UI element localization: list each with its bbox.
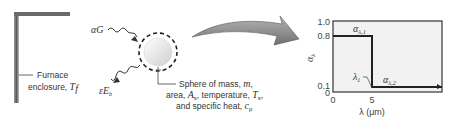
emission-label: εEb xyxy=(99,85,112,97)
furnace-label-line1: Furnace xyxy=(37,70,68,80)
irradiation-label: αG xyxy=(91,24,103,35)
absorptivity-chart: 1.0 0.8 0.1 0 0 5 αλ λ (μm) αλ,1 αλ,2 λ1 xyxy=(304,17,442,117)
curved-arrow-icon xyxy=(192,16,299,45)
furnace-wall-vertical xyxy=(14,12,19,103)
y-tick-0: 0 xyxy=(325,88,330,98)
furnace-label-line2: enclosure, Tf xyxy=(28,81,79,94)
sphere-label-line3: and specific heat, cp xyxy=(176,100,253,112)
x-axis-label: λ (μm) xyxy=(359,107,385,117)
y-axis-label: αλ xyxy=(304,54,316,62)
emission-wave-icon xyxy=(111,65,140,80)
furnace-wall-top xyxy=(14,12,70,16)
x-tick-5: 5 xyxy=(369,95,374,105)
figure-canvas: Furnace enclosure, Tf αG εEb Sphere of m… xyxy=(0,0,454,128)
x-tick-0: 0 xyxy=(330,95,335,105)
irradiation-wave-icon xyxy=(108,28,137,37)
sphere-body xyxy=(144,38,172,66)
sphere-label-line1: Sphere of mass, m, xyxy=(179,78,253,89)
y-tick-1.0: 1.0 xyxy=(317,17,330,27)
y-tick-0.8: 0.8 xyxy=(317,31,330,41)
sphere xyxy=(139,33,177,84)
